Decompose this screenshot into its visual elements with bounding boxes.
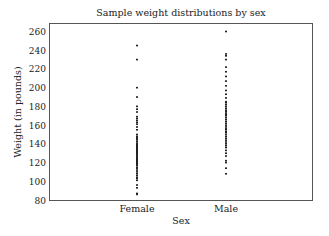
- data-point: [225, 128, 227, 130]
- data-point: [225, 66, 227, 68]
- data-point: [136, 184, 138, 186]
- y-tick-label: 260: [29, 27, 46, 37]
- y-tick-label: 220: [29, 64, 46, 74]
- data-point: [225, 131, 227, 133]
- data-point: [225, 143, 227, 145]
- x-axis-label: Sex: [172, 215, 190, 226]
- data-point: [225, 145, 227, 147]
- data-point: [225, 104, 227, 106]
- y-tick-label: 100: [29, 177, 46, 187]
- data-point: [136, 116, 138, 118]
- y-tick-label: 140: [29, 139, 46, 149]
- y-tick-label: 180: [29, 102, 46, 112]
- data-point: [225, 173, 227, 175]
- data-point: [136, 96, 138, 98]
- data-point: [136, 166, 138, 168]
- data-point: [225, 136, 227, 138]
- data-point: [136, 123, 138, 125]
- x-axis: FemaleMale: [119, 203, 238, 214]
- data-point: [136, 59, 138, 61]
- y-tick-label: 120: [29, 158, 46, 168]
- data-point: [136, 134, 138, 136]
- data-point: [136, 108, 138, 110]
- data-point: [225, 160, 227, 162]
- data-point: [225, 80, 227, 82]
- data-point: [136, 87, 138, 89]
- data-point: [136, 106, 138, 108]
- data-point: [225, 152, 227, 154]
- data-point: [225, 113, 227, 115]
- data-point: [136, 169, 138, 171]
- data-point: [136, 118, 138, 120]
- data-point: [225, 122, 227, 124]
- data-point: [225, 59, 227, 61]
- data-point: [136, 140, 138, 142]
- data-point: [225, 107, 227, 109]
- data-point: [225, 137, 227, 139]
- data-point: [225, 141, 227, 143]
- data-point: [225, 150, 227, 152]
- data-point: [225, 97, 227, 99]
- y-tick-label: 240: [29, 46, 46, 56]
- data-point: [225, 93, 227, 95]
- data-point: [136, 143, 138, 145]
- data-point: [225, 101, 227, 103]
- data-point: [225, 71, 227, 73]
- data-point: [225, 53, 227, 55]
- data-point: [225, 139, 227, 141]
- data-point: [225, 124, 227, 126]
- chart-title: Sample weight distributions by sex: [96, 7, 266, 18]
- data-point: [225, 109, 227, 111]
- data-point: [225, 121, 227, 123]
- data-point: [136, 187, 138, 189]
- y-tick-label: 200: [29, 83, 46, 93]
- data-point: [225, 126, 227, 128]
- data-point: [136, 122, 138, 124]
- data-point: [136, 171, 138, 173]
- data-point: [225, 76, 227, 78]
- data-point: [136, 120, 138, 122]
- data-point: [225, 85, 227, 87]
- plot-area: [50, 24, 313, 201]
- data-point: [225, 90, 227, 92]
- y-tick-label: 160: [29, 121, 46, 131]
- data-point: [136, 173, 138, 175]
- y-tick-label: 80: [35, 196, 47, 206]
- x-tick-label: Female: [119, 203, 154, 214]
- data-point: [136, 126, 138, 128]
- data-point: [136, 177, 138, 179]
- data-point: [136, 180, 138, 182]
- data-point: [225, 55, 227, 57]
- data-point: [225, 167, 227, 169]
- y-axis: 80100120140160180200220240260: [29, 27, 46, 206]
- data-point: [136, 129, 138, 131]
- data-point: [225, 31, 227, 33]
- data-point: [225, 117, 227, 119]
- y-axis-label: Weight (in pounds): [12, 66, 23, 157]
- data-point: [225, 162, 227, 164]
- data-point: [225, 134, 227, 136]
- data-point: [136, 175, 138, 177]
- data-point: [225, 119, 227, 121]
- data-point: [136, 111, 138, 113]
- x-tick-label: Male: [214, 203, 238, 214]
- data-point: [225, 155, 227, 157]
- data-point: [136, 136, 138, 138]
- scatter-chart: Sample weight distributions by sex 80100…: [0, 0, 329, 236]
- data-point: [136, 45, 138, 47]
- data-point: [225, 147, 227, 149]
- data-point: [136, 193, 138, 195]
- data-point: [225, 106, 227, 108]
